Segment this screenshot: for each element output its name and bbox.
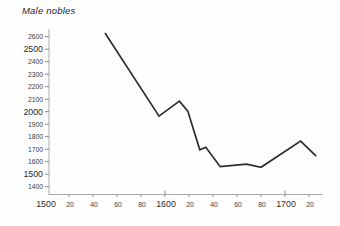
- x-tick-label: 20: [306, 201, 314, 208]
- chart-container: Male nobles 1400150016001700180019002000…: [0, 0, 340, 226]
- x-tick-label: 60: [234, 201, 242, 208]
- y-tick-label: 1500: [23, 169, 43, 179]
- x-tick-label: 20: [186, 201, 194, 208]
- y-tick-label: 1600: [28, 158, 43, 165]
- y-tick-label: 2600: [28, 33, 43, 40]
- x-tick-label: 1500: [36, 199, 56, 209]
- data-line: [105, 33, 316, 167]
- x-tick-label: 1600: [156, 199, 176, 209]
- y-tick-label: 2100: [28, 96, 43, 103]
- x-tick-label: 80: [258, 201, 266, 208]
- y-tick-label: 1900: [28, 121, 43, 128]
- line-chart: 1400150016001700180019002000210022002300…: [0, 0, 340, 226]
- y-tick-label: 1800: [28, 133, 43, 140]
- y-tick-label: 2500: [23, 44, 43, 54]
- x-tick-label: 1700: [276, 199, 296, 209]
- x-tick-label: 80: [138, 201, 146, 208]
- x-tick-label: 40: [210, 201, 218, 208]
- x-tick-label: 40: [90, 201, 98, 208]
- y-tick-label: 2300: [28, 71, 43, 78]
- y-tick-label: 2200: [28, 83, 43, 90]
- y-tick-label: 2400: [28, 58, 43, 65]
- y-tick-label: 1400: [28, 183, 43, 190]
- y-tick-label: 1700: [28, 146, 43, 153]
- y-tick-label: 2000: [23, 107, 43, 117]
- x-tick-label: 60: [114, 201, 122, 208]
- x-tick-label: 20: [66, 201, 74, 208]
